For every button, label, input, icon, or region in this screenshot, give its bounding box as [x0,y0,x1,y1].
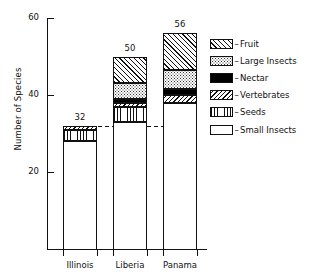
legend-label: Large Insects [240,56,297,66]
legend-swatch-icon [210,90,233,100]
bar-segment-large-insects [113,83,147,98]
legend-dash-separator: – [233,39,240,49]
legend-label: Seeds [240,107,266,117]
bar-segment-fruit [163,33,197,70]
bar-segment-seeds [63,130,97,142]
legend-item-nectar: –Nectar [210,69,314,86]
y-tick-label: 20 [17,166,39,176]
legend-label: Small Insects [240,125,296,135]
legend-swatch-icon [210,39,233,49]
legend-item-vertebrates: –Vertebrates [210,87,314,104]
bar-segment-small-insects [63,141,97,249]
bar-panama [163,33,197,249]
bar-segment-seeds [113,107,147,122]
bar-total-liberia: 50 [110,43,150,53]
legend-swatch-icon [210,73,233,83]
legend-item-fruit: –Fruit [210,35,314,52]
y-tick-label: 60 [17,12,39,22]
bar-illinois [63,126,97,249]
legend-swatch-icon [210,56,233,66]
bar-liberia [113,57,147,250]
stacked-bar-chart: Number of Species 204060 325056 Illinois… [0,0,316,277]
legend-item-seeds: –Seeds [210,104,314,121]
bar-segment-fruit [113,57,147,84]
bar-segment-vertebrates [163,95,197,103]
bar-segment-small-insects [113,122,147,249]
legend-swatch-icon [210,125,233,135]
legend-item-large-insects: –Large Insects [210,52,314,69]
x-tick-label-panama: Panama [150,260,210,270]
legend-dash-separator: – [233,107,240,117]
legend-dash-separator: – [233,73,240,83]
legend-dash-separator: – [233,90,240,100]
legend-swatch-icon [210,107,233,117]
legend-label: Nectar [240,73,268,83]
legend-dash-separator: – [233,56,240,66]
legend-item-small-insects: –Small Insects [210,121,314,138]
bar-segment-large-insects [163,70,197,89]
legend-dash-separator: – [233,125,240,135]
legend-label: Fruit [240,39,259,49]
legend: –Fruit–Large Insects–Nectar–Vertebrates–… [210,35,314,138]
bar-total-illinois: 32 [60,112,100,122]
y-tick-label: 40 [17,89,39,99]
legend-label: Vertebrates [240,90,290,100]
bar-segment-small-insects [163,103,197,249]
bar-total-panama: 56 [160,19,200,29]
